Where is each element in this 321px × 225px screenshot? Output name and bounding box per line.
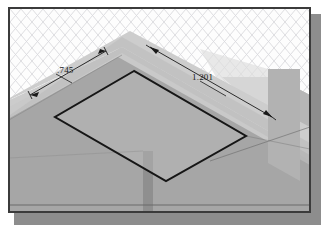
screenshot-root: .745 1.201 bbox=[0, 0, 321, 225]
viewport-frame[interactable]: .745 1.201 bbox=[8, 7, 311, 213]
dim-1201-label: 1.201 bbox=[192, 72, 213, 82]
viewport-canvas[interactable]: .745 1.201 bbox=[10, 9, 309, 211]
right-tall-wall bbox=[268, 69, 300, 181]
dim-745-label: .745 bbox=[57, 65, 74, 75]
cad-scene[interactable]: .745 1.201 bbox=[10, 9, 309, 211]
